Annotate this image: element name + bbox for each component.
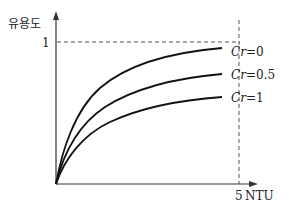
legend-cr05-val: =0.5 bbox=[246, 68, 275, 82]
legend-cr0-var: Cr bbox=[231, 45, 247, 59]
legend-cr1-var: Cr bbox=[231, 91, 247, 105]
y-axis-arrow-icon bbox=[53, 11, 59, 20]
legend-cr05: Cr=0.5 bbox=[231, 68, 275, 82]
curve-cr0.5 bbox=[56, 74, 222, 184]
effectiveness-ntu-chart: 유용도 1 5 NTU Cr=0 Cr=0.5 Cr=1 bbox=[0, 0, 289, 219]
x-tick-5: 5 bbox=[235, 189, 243, 203]
x-axis-label: NTU bbox=[245, 189, 274, 203]
y-axis-label: 유용도 bbox=[8, 17, 41, 31]
legend-cr1: Cr=1 bbox=[231, 91, 264, 105]
legend-cr05-var: Cr bbox=[231, 68, 247, 82]
curve-cr0 bbox=[56, 48, 222, 184]
x-axis-arrow-icon bbox=[249, 181, 258, 187]
legend-cr0-val: =0 bbox=[246, 45, 264, 59]
legend-cr0: Cr=0 bbox=[231, 45, 264, 59]
y-tick-1: 1 bbox=[42, 36, 50, 50]
legend-cr1-val: =1 bbox=[246, 91, 264, 105]
